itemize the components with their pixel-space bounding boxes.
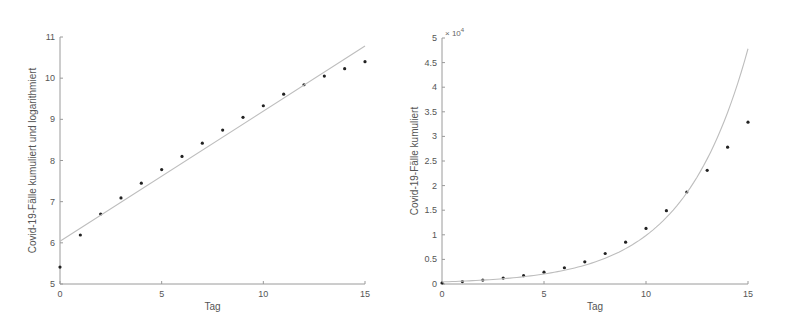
data-point xyxy=(644,227,647,230)
y-tick-label: 5 xyxy=(50,279,55,289)
data-point xyxy=(58,266,61,269)
fit-line xyxy=(60,46,365,241)
y-tick-label: 3.5 xyxy=(424,107,437,117)
data-point xyxy=(160,168,163,171)
data-point xyxy=(604,252,607,255)
data-point xyxy=(563,266,566,269)
y-tick-label: 4.5 xyxy=(424,58,437,68)
data-point xyxy=(241,116,244,119)
data-point xyxy=(665,209,668,212)
x-tick-label: 15 xyxy=(360,289,370,299)
data-point xyxy=(726,146,729,149)
y-tick-label: 4 xyxy=(432,82,437,92)
data-point xyxy=(201,142,204,145)
y-tick-label: 8 xyxy=(50,156,55,166)
y-tick-label: 2.5 xyxy=(424,156,437,166)
data-point xyxy=(624,241,627,244)
data-point xyxy=(180,155,183,158)
data-point xyxy=(363,60,366,63)
figure: 051015567891011TagCovid-19-Fälle kumulie… xyxy=(0,0,787,326)
x-tick-label: 5 xyxy=(541,289,546,299)
x-tick-label: 15 xyxy=(743,289,753,299)
fit-curve xyxy=(442,49,748,282)
x-tick-label: 0 xyxy=(439,289,444,299)
data-point xyxy=(221,128,224,131)
y-tick-label: 11 xyxy=(46,32,55,42)
data-point xyxy=(323,75,326,78)
y-tick-label: 1 xyxy=(432,230,437,240)
y-tick-label: 0 xyxy=(432,279,437,289)
x-tick-label: 10 xyxy=(258,289,268,299)
y-tick-label: 6 xyxy=(50,238,55,248)
y-tick-label: 9 xyxy=(50,114,55,124)
data-point xyxy=(262,104,265,107)
y-tick-label: 3 xyxy=(432,131,437,141)
data-point xyxy=(583,260,586,263)
y-axis-label: Covid-19-Fälle kumuliert xyxy=(409,107,420,216)
log-scale-chart: 051015567891011TagCovid-19-Fälle kumulie… xyxy=(27,32,370,312)
y-tick-label: 10 xyxy=(45,73,55,83)
data-point xyxy=(140,182,143,185)
y-tick-label: 0.5 xyxy=(424,254,437,264)
y-tick-label: 2 xyxy=(432,181,437,191)
x-axis-label: Tag xyxy=(204,301,220,312)
data-point xyxy=(706,169,709,172)
data-point xyxy=(343,67,346,70)
y-exponent-label: × 104 xyxy=(445,27,465,38)
x-tick-label: 5 xyxy=(159,289,164,299)
y-axis-label: Covid-19-Fälle kumuliert und logarithmie… xyxy=(27,67,38,253)
x-tick-label: 0 xyxy=(57,289,62,299)
data-point xyxy=(282,93,285,96)
x-tick-label: 10 xyxy=(641,289,651,299)
x-axis-label: Tag xyxy=(587,301,603,312)
data-point xyxy=(746,121,749,124)
cumulative-cases-chart: 05101500.511.522.533.544.55× 104TagCovid… xyxy=(409,27,753,312)
y-tick-label: 5 xyxy=(432,33,437,43)
y-tick-label: 1.5 xyxy=(424,205,437,215)
data-point xyxy=(79,233,82,236)
data-point xyxy=(119,196,122,199)
y-tick-label: 7 xyxy=(50,197,55,207)
